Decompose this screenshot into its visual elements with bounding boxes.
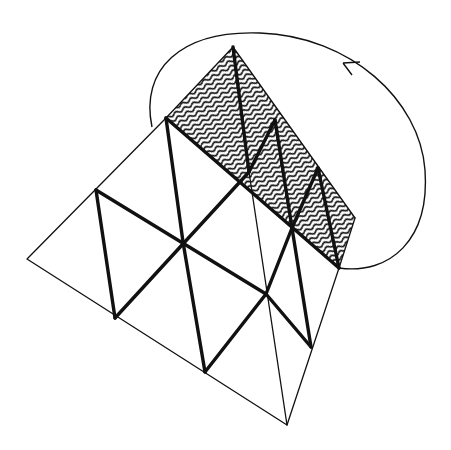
diagram-canvas bbox=[0, 0, 451, 450]
